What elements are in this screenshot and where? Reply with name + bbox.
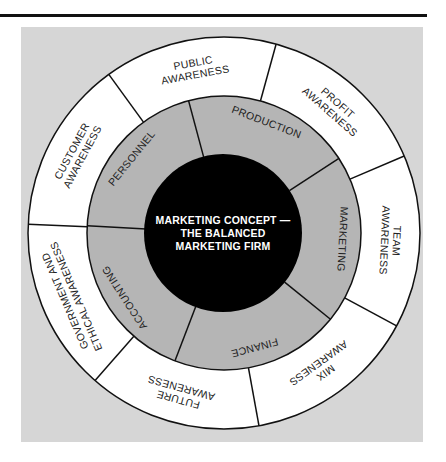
center-title-line-1: MARKETING CONCEPT — — [155, 214, 290, 226]
center-title-line-3: MARKETING FIRM — [176, 240, 271, 252]
balanced-marketing-wheel: PUBLIC AWARENESS PROFIT AWARENESS TEAM A… — [0, 0, 446, 462]
center-title-line-2: THE BALANCED — [180, 227, 265, 239]
